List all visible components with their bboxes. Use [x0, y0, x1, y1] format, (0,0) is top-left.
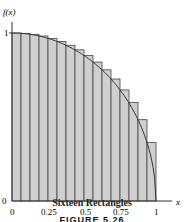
rectangle [21, 33, 30, 201]
figure-number: FIGURE 5.26 [0, 215, 184, 222]
rectangle [93, 62, 102, 201]
y-tick-label-1: 1 [4, 28, 9, 38]
rectangle [75, 50, 84, 201]
rectangle [57, 41, 66, 201]
rectangle [120, 90, 129, 201]
rectangle [66, 45, 75, 201]
rectangle [30, 34, 39, 201]
rectangle [39, 36, 48, 201]
rectangle [48, 38, 57, 201]
rectangle [84, 56, 93, 201]
rectangle [147, 143, 156, 201]
rectangle [138, 120, 147, 201]
rectangles [12, 33, 156, 201]
y-axis-label: f(x) [3, 7, 16, 17]
chart-canvas: f(x) 1 0 x 0 0.25 0.5 0.75 1 [0, 0, 184, 222]
chart-caption: Sixteen Rectangles [0, 197, 184, 208]
rectangle [12, 33, 21, 201]
rectangle [111, 79, 120, 201]
rectangle [102, 70, 111, 201]
